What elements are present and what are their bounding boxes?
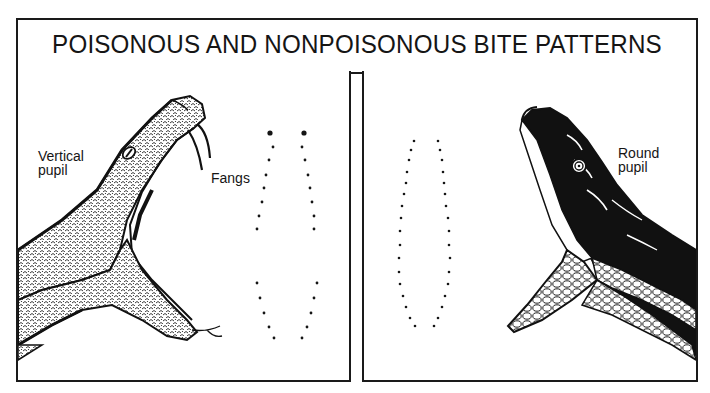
tooth-mark (398, 257, 401, 260)
label-line-2: pupil (38, 163, 84, 177)
tooth-mark (444, 193, 447, 196)
tooth-mark (306, 326, 309, 329)
tooth-mark (399, 230, 402, 233)
tooth-mark (256, 282, 259, 285)
tooth-mark (405, 182, 408, 185)
title-banner: POISONOUS AND NONPOISONOUS BITE PATTERNS (16, 18, 698, 74)
label-line-2: pupil (618, 160, 659, 174)
tooth-mark (437, 140, 440, 143)
tooth-mark (409, 317, 412, 320)
tooth-mark (444, 295, 447, 298)
tooth-mark (433, 325, 436, 328)
tooth-mark (442, 171, 445, 174)
tooth-mark (313, 228, 316, 231)
label-line-1: Vertical (38, 149, 84, 163)
tooth-mark (437, 317, 440, 320)
nonpoisonous-panel: Round pupil (362, 71, 698, 382)
tooth-mark (447, 217, 450, 220)
tooth-mark (445, 205, 448, 208)
tooth-mark (406, 171, 409, 174)
tooth-mark (400, 217, 403, 220)
tooth-mark (439, 149, 442, 152)
nonpoisonous-snake-illustration (364, 71, 696, 380)
tooth-mark (307, 174, 310, 177)
tooth-mark (448, 271, 451, 274)
tooth-mark (272, 146, 275, 149)
tooth-mark (273, 337, 276, 340)
tooth-mark (268, 326, 271, 329)
tooth-mark (408, 159, 411, 162)
tooth-mark (403, 193, 406, 196)
tooth-mark (265, 174, 268, 177)
tooth-mark (301, 337, 304, 340)
tooth-mark (447, 283, 450, 286)
tooth-mark (448, 230, 451, 233)
poisonous-snake-illustration (18, 71, 349, 380)
label-line-1: Round (618, 146, 659, 160)
tooth-mark (311, 201, 314, 204)
tooth-mark (405, 306, 408, 309)
nonpoisonous-bite-pattern (398, 140, 452, 328)
tooth-mark (399, 244, 402, 247)
tooth-mark (310, 312, 313, 315)
poisonous-panel: Vertical pupil Fangs (16, 71, 351, 382)
tooth-mark (399, 283, 402, 286)
tooth-mark (402, 295, 405, 298)
tooth-mark (309, 187, 312, 190)
vertical-pupil-label: Vertical pupil (38, 149, 84, 177)
tooth-mark (256, 228, 259, 231)
tooth-mark (398, 271, 401, 274)
tooth-mark (410, 149, 413, 152)
tooth-mark (316, 282, 319, 285)
tooth-mark (304, 159, 307, 162)
tooth-mark (414, 325, 417, 328)
tooth-mark (313, 215, 316, 218)
tooth-mark (258, 215, 261, 218)
tooth-mark (301, 146, 304, 149)
tooth-mark (259, 297, 262, 300)
tooth-mark (449, 257, 452, 260)
tooth-mark (448, 244, 451, 247)
tooth-mark (263, 312, 266, 315)
round-pupil-label: Round pupil (618, 146, 659, 174)
fang-mark (301, 130, 306, 135)
tooth-mark (401, 205, 404, 208)
tooth-mark (268, 159, 271, 162)
tooth-mark (263, 187, 266, 190)
tooth-mark (441, 159, 444, 162)
fangs-label: Fangs (211, 171, 250, 185)
diagram-title: POISONOUS AND NONPOISONOUS BITE PATTERNS (42, 29, 673, 60)
tooth-mark (261, 201, 264, 204)
tooth-mark (443, 182, 446, 185)
tooth-mark (441, 306, 444, 309)
poisonous-bite-pattern (256, 130, 319, 339)
tooth-mark (313, 297, 316, 300)
fang-mark (267, 130, 272, 135)
tooth-mark (413, 140, 416, 143)
